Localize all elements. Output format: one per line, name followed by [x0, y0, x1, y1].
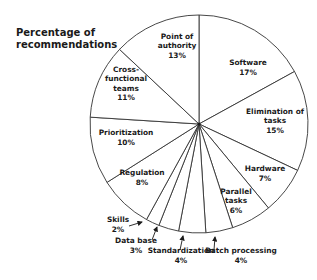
slice-label: Standardization4%	[148, 246, 215, 265]
slice-label: Skills2%	[107, 215, 130, 234]
callout-arrow-icon	[129, 222, 142, 226]
slice-label: Batch processing4%	[205, 246, 277, 265]
pie-center	[197, 122, 200, 125]
pie-chart: Software17%Elimination oftasks15%Hardwar…	[0, 0, 317, 280]
